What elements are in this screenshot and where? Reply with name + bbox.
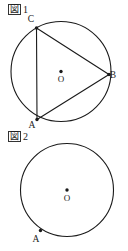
- figure-1-point-c-dot: [35, 26, 38, 29]
- figure-2-vertices: A: [33, 229, 43, 244]
- figure-1-point-b-label: B: [110, 70, 116, 80]
- figure-sheet: 図 1 CBA O 図 2 A O: [0, 0, 128, 251]
- figure-2-block: 図 2 A O: [0, 128, 128, 251]
- figure-2-drawing: A O: [0, 128, 128, 251]
- figure-1-point-a-label: A: [29, 120, 36, 128]
- figure-1-point-c-label: C: [28, 14, 34, 24]
- figure-2-center-dot: [65, 188, 68, 191]
- figure-1-chord-CB: [37, 28, 110, 75]
- figure-1-block: 図 1 CBA O: [0, 0, 128, 128]
- figure-2-center-label: O: [64, 193, 71, 203]
- figure-1-point-a-dot: [35, 118, 38, 121]
- figure-1-drawing: CBA O: [0, 0, 128, 128]
- figure-2-point-a-label: A: [33, 234, 40, 244]
- figure-1-chord-AB: [37, 75, 109, 120]
- figure-1-chord-CA: [37, 28, 38, 120]
- figure-2-point-a-dot: [39, 229, 42, 232]
- figure-1-center-dot: [59, 70, 62, 73]
- figure-1-center-label: O: [58, 74, 65, 84]
